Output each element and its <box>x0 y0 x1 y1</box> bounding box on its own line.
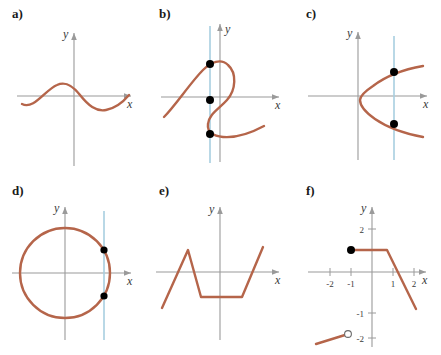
panel-f-filled-endpoint-point <box>347 246 355 254</box>
panel-f-y-axis-label: y <box>360 201 367 215</box>
panel-b-intersection-point-upper <box>206 60 214 68</box>
panel-c-y-axis-label: y <box>346 26 353 40</box>
panel-b-curve <box>164 61 264 137</box>
panel-d-intersection-point-upper <box>100 246 107 253</box>
panel-e: e) x y <box>147 177 294 354</box>
panel-b-axes <box>161 24 279 162</box>
panel-f-open-endpoint-point <box>345 331 352 338</box>
panel-b-x-axis-label: x <box>274 98 281 112</box>
panel-f-xtick-2: 2 <box>412 279 417 289</box>
panel-d-intersection-point-lower <box>100 292 107 299</box>
panel-f-curve-main <box>351 250 416 309</box>
panel-f-axes <box>308 207 426 347</box>
panel-c-axes <box>308 32 427 160</box>
panel-c-intersection-point-upper <box>390 68 398 76</box>
panel-c-x-axis-label: x <box>422 97 429 111</box>
panel-b-y-axis-label: y <box>224 22 231 36</box>
panel-c: c) x y <box>294 0 441 177</box>
panel-a-x-axis-label: x <box>126 97 133 111</box>
panel-f-ytick-2: 2 <box>360 225 365 235</box>
panel-e-axes <box>156 207 279 340</box>
panel-f-ytick--1: -1 <box>357 309 365 319</box>
panel-a-axes <box>17 33 131 166</box>
panel-f-xtick-1: 1 <box>391 279 396 289</box>
panel-f-xtick--2: -2 <box>326 279 334 289</box>
panel-a-curve <box>22 84 129 111</box>
panel-b-intersection-point-lower <box>206 130 214 138</box>
panel-a-y-axis-label: y <box>62 27 69 41</box>
panel-f-xtick--1: -1 <box>347 279 355 289</box>
panel-f-ytick--2: -2 <box>357 334 365 344</box>
panel-c-intersection-point-lower <box>390 120 398 128</box>
panel-e-curve <box>162 247 263 308</box>
panel-f-x-axis-label: x <box>421 273 428 287</box>
panel-a: a) x y <box>0 0 147 177</box>
panel-d-y-axis-label: y <box>53 201 60 215</box>
panel-f-curve-detached <box>316 335 345 344</box>
panel-d-axes <box>12 207 131 340</box>
panel-b: b) x y <box>147 0 294 177</box>
panel-b-intersection-point-middle <box>206 96 214 104</box>
panel-f: f) -2 -1 1 2 2 -1 -2 x y <box>294 177 441 354</box>
panel-d-x-axis-label: x <box>126 274 133 288</box>
panel-e-y-axis-label: y <box>208 202 215 216</box>
panel-e-x-axis-label: x <box>274 273 281 287</box>
panel-d: d) x y <box>0 177 147 354</box>
